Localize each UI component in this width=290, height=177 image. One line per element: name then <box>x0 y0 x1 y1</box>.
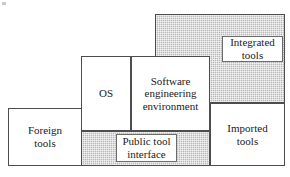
foreign-tools-label-line1: Foreign <box>28 124 62 137</box>
see-label-line3: environment <box>143 100 199 113</box>
imported-tools-label-line2: tools <box>227 135 267 148</box>
software-engineering-environment-label: Software engineering environment <box>143 75 199 113</box>
integrated-tools-label-line2: tools <box>230 49 275 62</box>
imported-tools-block[interactable]: Imported tools <box>210 103 285 166</box>
scan-artifact-speck <box>2 2 6 5</box>
integrated-tools-label: Integrated tools <box>230 36 275 61</box>
public-tool-interface-label-plate[interactable]: Public tool interface <box>116 134 177 162</box>
os-label: OS <box>99 87 113 100</box>
foreign-tools-label: Foreign tools <box>28 124 62 149</box>
diagram-canvas: OS Software engineering environment Impo… <box>0 0 290 177</box>
software-engineering-environment-block[interactable]: Software engineering environment <box>131 56 210 131</box>
public-tool-interface-label: Public tool interface <box>123 135 171 160</box>
public-tool-interface-label-line2: interface <box>123 148 171 161</box>
foreign-tools-label-line2: tools <box>28 137 62 150</box>
imported-tools-label-line1: Imported <box>227 122 267 135</box>
os-block[interactable]: OS <box>81 56 131 131</box>
imported-tools-label: Imported tools <box>227 122 267 147</box>
integrated-tools-label-line1: Integrated <box>230 36 275 49</box>
foreign-tools-block[interactable]: Foreign tools <box>8 108 82 166</box>
integrated-tools-label-plate[interactable]: Integrated tools <box>222 36 283 62</box>
see-label-line2: engineering <box>143 87 199 100</box>
public-tool-interface-label-line1: Public tool <box>123 135 171 148</box>
see-label-line1: Software <box>143 75 199 88</box>
